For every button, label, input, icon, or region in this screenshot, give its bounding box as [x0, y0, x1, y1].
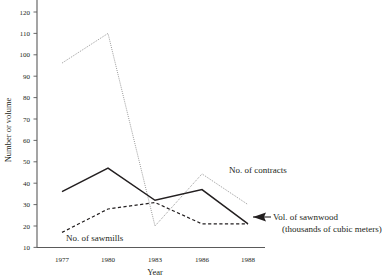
y-tick-label-100: 100 — [20, 51, 31, 59]
series-vol-of-sawnwood — [62, 168, 248, 224]
series-no-of-contracts — [62, 33, 248, 226]
annotation-no-of-contracts: No. of contracts — [229, 165, 287, 175]
chart-canvas: 120 110 100 90 80 70 60 50 40 30 20 10 1… — [0, 0, 392, 279]
y-tick-label-120: 120 — [20, 9, 31, 17]
annotation-vol-of-sawnwood-line2: (thousands of cubic meters) — [282, 224, 382, 234]
y-tick-label-40: 40 — [23, 180, 31, 188]
y-tick-label-70: 70 — [23, 116, 31, 124]
y-axis-title: Number or volume — [3, 97, 13, 162]
y-tick-label-30: 30 — [23, 201, 31, 209]
y-tick-label-10: 10 — [23, 244, 31, 252]
y-tick-label-50: 50 — [23, 158, 31, 166]
y-tick-label-90: 90 — [23, 73, 31, 81]
x-tick-label-1983: 1983 — [148, 256, 163, 264]
y-tick-label-80: 80 — [23, 94, 31, 102]
x-tick-label-1977: 1977 — [55, 256, 70, 264]
annotation-no-of-sawmills: No. of sawmills — [66, 233, 124, 243]
line-chart: 120 110 100 90 80 70 60 50 40 30 20 10 1… — [0, 0, 392, 279]
annotation-vol-of-sawnwood-line1: Vol. of sawnwood — [273, 212, 339, 222]
x-tick-label-1988: 1988 — [241, 256, 256, 264]
y-tick-label-20: 20 — [23, 223, 31, 231]
y-tick-label-60: 60 — [23, 137, 31, 145]
sawnwood-arrow-icon — [253, 212, 271, 221]
y-tick-label-110: 110 — [20, 30, 31, 38]
series-no-of-sawmills — [62, 203, 248, 233]
x-axis-title: Year — [147, 267, 163, 277]
x-tick-label-1980: 1980 — [101, 256, 116, 264]
x-tick-label-1986: 1986 — [195, 256, 210, 264]
